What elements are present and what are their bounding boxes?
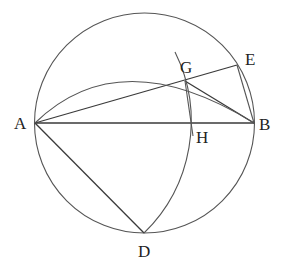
geometry-diagram: A B G E H D [0, 0, 282, 267]
label-H: H [196, 128, 208, 147]
label-G: G [180, 58, 192, 77]
label-B: B [259, 115, 270, 134]
label-D: D [138, 242, 150, 261]
segment-AD [35, 123, 144, 233]
arc-GD [144, 52, 191, 233]
label-E: E [245, 50, 255, 69]
label-A: A [14, 114, 27, 133]
segment-GH [185, 81, 193, 136]
